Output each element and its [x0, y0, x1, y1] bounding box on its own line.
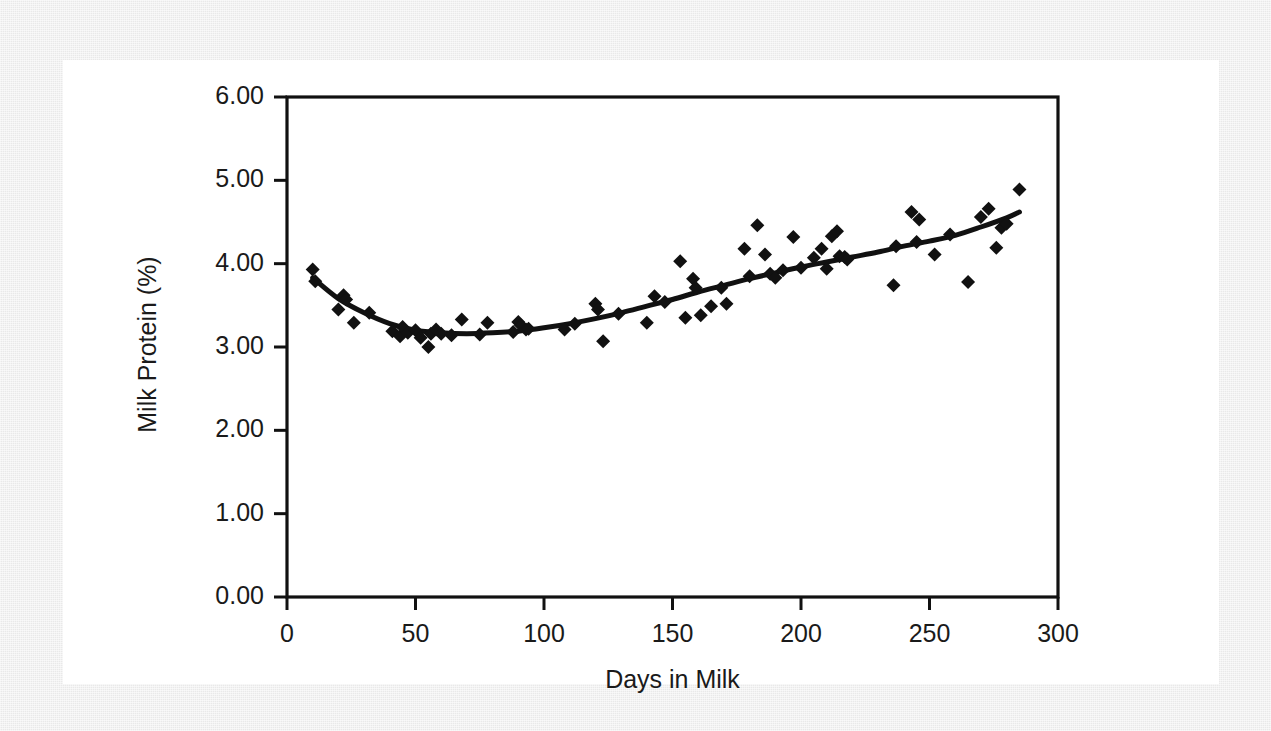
- scanned-page: 0.001.002.003.004.005.006.00 05010015020…: [0, 0, 1271, 731]
- y-axis-title: Milk Protein (%): [133, 195, 162, 495]
- x-axis-tick-label: 250: [890, 619, 970, 648]
- x-axis-tick-label: 0: [247, 619, 327, 648]
- y-axis-tick-label: 4.00: [174, 248, 264, 277]
- y-axis-tick-label: 0.00: [174, 581, 264, 610]
- y-axis-tick-label: 2.00: [174, 414, 264, 443]
- x-axis-ticks: [287, 597, 1058, 610]
- x-axis-title: Days in Milk: [287, 665, 1058, 694]
- y-axis-ticks: [274, 97, 287, 597]
- axes-frame: [287, 97, 1058, 597]
- y-axis-tick-label: 3.00: [174, 331, 264, 360]
- y-axis-tick-label: 6.00: [174, 81, 264, 110]
- y-axis-tick-label: 5.00: [174, 164, 264, 193]
- fitted-curve: [313, 212, 1020, 334]
- x-axis-tick-label: 150: [633, 619, 713, 648]
- plot-area: 0.001.002.003.004.005.006.00 05010015020…: [63, 60, 1219, 684]
- x-axis-tick-label: 200: [761, 619, 841, 648]
- figure-card: 0.001.002.003.004.005.006.00 05010015020…: [63, 60, 1219, 684]
- y-axis-tick-label: 1.00: [174, 498, 264, 527]
- x-axis-tick-label: 300: [1018, 619, 1098, 648]
- x-axis-tick-label: 100: [504, 619, 584, 648]
- x-axis-tick-label: 50: [376, 619, 456, 648]
- scatter-markers: [306, 183, 1027, 355]
